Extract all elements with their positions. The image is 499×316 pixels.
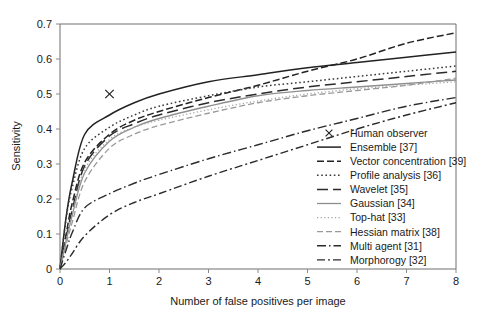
legend-item-label: Wavelet [35] bbox=[350, 183, 408, 195]
y-tick-label: 0.3 bbox=[37, 158, 52, 170]
x-tick-label: 3 bbox=[205, 275, 211, 287]
x-tick-label: 6 bbox=[354, 275, 360, 287]
legend-item-label: Gaussian [34] bbox=[350, 197, 415, 209]
froc-chart: 00.10.20.30.40.50.60.7 012345678 Sensiti… bbox=[0, 0, 499, 316]
y-tick-label: 0 bbox=[46, 263, 52, 275]
x-tick-label: 4 bbox=[255, 275, 261, 287]
legend-item-label: Hessian matrix [38] bbox=[350, 226, 440, 238]
y-tick-label: 0.5 bbox=[37, 88, 52, 100]
x-tick-label: 5 bbox=[304, 275, 310, 287]
legend-item-label: Vector concentration [39] bbox=[350, 155, 466, 167]
y-tick-label: 0.4 bbox=[37, 123, 52, 135]
legend-item-label: Morphorogy [32] bbox=[350, 254, 427, 266]
legend-item-label: Ensemble [37] bbox=[350, 141, 417, 153]
legend-item-label: Multi agent [31] bbox=[350, 240, 422, 252]
legend-item-label: Profile analysis [36] bbox=[350, 169, 441, 181]
y-tick-label: 0.1 bbox=[37, 228, 52, 240]
x-tick-label: 0 bbox=[57, 275, 63, 287]
y-tick-label: 0.6 bbox=[37, 53, 52, 65]
y-tick-label: 0.7 bbox=[37, 18, 52, 30]
chart-canvas: 00.10.20.30.40.50.60.7 012345678 Sensiti… bbox=[0, 0, 499, 316]
x-axis-title: Number of false positives per image bbox=[170, 295, 345, 307]
y-axis-title: Sensitivity bbox=[10, 121, 22, 171]
legend-item-label: Top-hat [33] bbox=[350, 211, 406, 223]
x-tick-label: 7 bbox=[403, 275, 409, 287]
x-tick-label: 8 bbox=[453, 275, 459, 287]
x-tick-label: 1 bbox=[106, 275, 112, 287]
legend-item-label: Human observer bbox=[350, 127, 428, 139]
y-tick-label: 0.2 bbox=[37, 193, 52, 205]
x-tick-label: 2 bbox=[156, 275, 162, 287]
